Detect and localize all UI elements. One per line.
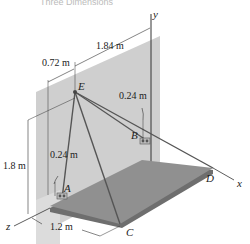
x-axis-label: x (236, 177, 242, 189)
y-axis-label: y (152, 8, 158, 20)
dim-1.2-line-right (82, 230, 100, 236)
x-axis (213, 168, 234, 180)
dim-width: 1.2 m (50, 221, 73, 232)
hinge-B (140, 138, 150, 144)
label-A: A (63, 182, 71, 194)
z-axis-label: z (5, 220, 11, 232)
dim-extension (100, 226, 120, 236)
label-E: E (77, 80, 85, 92)
dim-height: 1.8 m (3, 160, 26, 171)
diagram-canvas: Three Dimensions y x z E B A C D 1.84 m … (0, 0, 250, 244)
label-C: C (126, 226, 134, 238)
label-D: D (205, 172, 214, 184)
dim-b-offset: 0.24 m (119, 90, 147, 101)
static-equilibrium-figure: Three Dimensions y x z E B A C D 1.84 m … (0, 0, 250, 244)
dim-a-offset: 0.24 m (50, 149, 78, 160)
dim-e-offset: 0.72 m (42, 57, 70, 68)
dim-top-span: 1.84 m (96, 40, 124, 51)
header-title: Three Dimensions (40, 0, 114, 7)
point-E-marker (73, 90, 77, 94)
label-B: B (131, 129, 138, 141)
